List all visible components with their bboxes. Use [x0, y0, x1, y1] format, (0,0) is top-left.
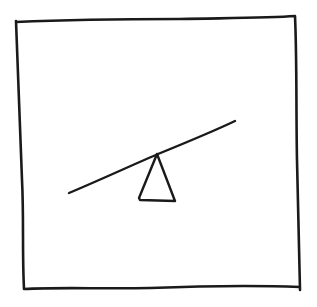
seesaw-plank: [69, 121, 235, 193]
sketch-drawing: [0, 0, 317, 307]
seesaw-sketch: [0, 0, 317, 307]
